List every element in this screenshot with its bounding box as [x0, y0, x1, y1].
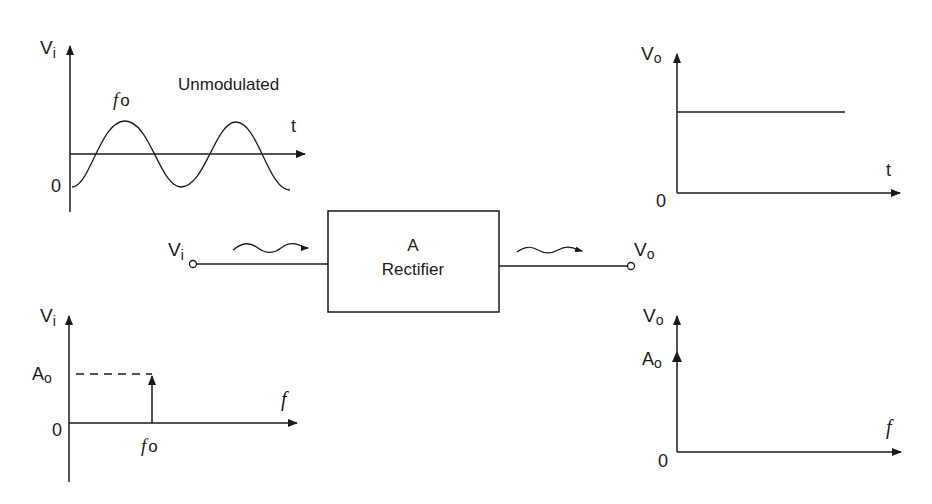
svg-text:Vo: Vo [634, 239, 655, 262]
input-signal-wave-icon [233, 244, 308, 253]
zero-label: 0 [656, 191, 666, 211]
rectifier-diagram: Vi t 0 Unmodulated fo Vo t 0 Vi A Rectif… [0, 0, 932, 504]
x-label: t [886, 160, 891, 180]
output-time-plot: Vo t 0 [641, 43, 900, 211]
svg-text:Vo: Vo [641, 43, 662, 66]
svg-text:Ao: Ao [642, 349, 662, 371]
output-terminal [628, 263, 635, 270]
y-label: V [40, 37, 53, 58]
amp-label: A [32, 364, 44, 384]
svg-text:Vi: Vi [40, 37, 56, 61]
sine-wave [72, 121, 290, 190]
zero-label: 0 [52, 420, 62, 440]
input-time-plot: Vi t 0 Unmodulated fo [40, 37, 305, 212]
y-label: V [641, 43, 654, 64]
zero-label: 0 [51, 176, 61, 196]
block-label-rectifier: Rectifier [382, 260, 445, 279]
output-signal-wave-icon [517, 247, 582, 253]
block-label-a: A [407, 236, 419, 255]
input-terminal [190, 261, 197, 268]
dc-spectral-arrowhead [672, 351, 682, 362]
svg-text:Vo: Vo [643, 305, 664, 328]
svg-text:fo: fo [113, 89, 130, 110]
x-label: f [281, 388, 289, 411]
x-label: f [886, 416, 894, 439]
output-spectrum-plot: Vo Ao 0 f [642, 305, 901, 471]
amp-label: A [642, 349, 654, 369]
svg-text:Ao: Ao [32, 364, 52, 386]
plot-title: Unmodulated [178, 75, 279, 94]
y-label: V [40, 305, 53, 326]
svg-text:Vi: Vi [40, 305, 56, 329]
svg-text:fo: fo [141, 435, 158, 456]
rectifier-block-diagram: Vi A Rectifier Vo [168, 211, 655, 312]
zero-label: 0 [658, 451, 668, 471]
svg-text:Vi: Vi [168, 239, 184, 263]
input-spectrum-plot: Vi Ao 0 f fo [32, 305, 297, 482]
y-label: V [643, 305, 656, 326]
x-label: t [291, 116, 296, 136]
